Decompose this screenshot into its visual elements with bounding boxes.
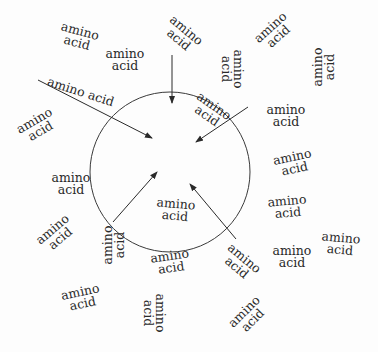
arrow-lower-right-icon [190, 184, 236, 239]
amino-acid-label: aminoacid [312, 48, 336, 87]
amino-acid-label: aminoacid [52, 172, 91, 196]
amino-acid-label: aminoacid [267, 193, 308, 220]
label-line-2: acid [155, 208, 195, 223]
amino-acid-diagram: aminoacidaminoacidamino acidaminoacidami… [0, 0, 378, 352]
arrow-lower-left-icon [113, 172, 157, 222]
label-line-2: acid [114, 226, 126, 265]
label-line-2: acid [268, 205, 308, 220]
label-line-2: acid [324, 48, 336, 87]
amino-acid-label: aminoacid [142, 294, 166, 333]
label-line-2: acid [220, 50, 232, 89]
amino-acid-label: aminoacid [149, 247, 191, 276]
label-line-2: acid [142, 294, 154, 333]
label-line-2: acid [273, 257, 312, 269]
amino-acid-label: aminoacid [267, 104, 306, 128]
label-line-2: acid [106, 60, 145, 72]
label-line-2: acid [52, 184, 91, 196]
amino-acid-label: aminoacid [106, 48, 145, 72]
amino-acid-label: aminoacid [220, 50, 244, 89]
amino-acid-label: aminoacid [102, 226, 126, 265]
label-line-2: acid [320, 242, 360, 257]
amino-acid-label: aminoacid [320, 230, 361, 257]
amino-acid-label: aminoacid [273, 245, 312, 269]
label-line-2: acid [267, 116, 306, 128]
amino-acid-label: aminoacid [155, 196, 196, 223]
